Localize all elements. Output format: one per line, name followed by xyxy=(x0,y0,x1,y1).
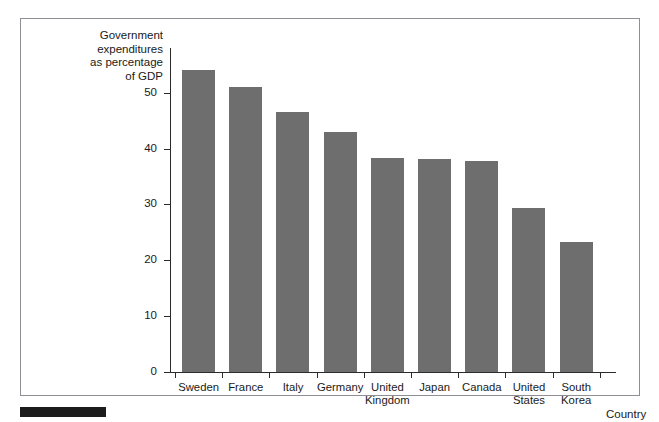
y-axis-title: Government expenditures as percentage of… xyxy=(43,29,163,83)
category-label: Italy xyxy=(269,381,316,394)
y-tick-label-50: 50 xyxy=(117,86,157,98)
category-label: United Kingdom xyxy=(364,381,411,407)
y-tick-10 xyxy=(164,316,171,317)
x-tick xyxy=(553,372,554,378)
x-tick xyxy=(364,372,365,378)
y-tick-label-40: 40 xyxy=(117,142,157,154)
x-tick xyxy=(505,372,506,378)
y-tick-label-20: 20 xyxy=(117,253,157,265)
x-axis-title: Country xyxy=(606,408,646,420)
bar[interactable] xyxy=(512,208,545,372)
category-label: Germany xyxy=(317,381,364,394)
y-tick-0 xyxy=(164,372,171,373)
y-tick-50 xyxy=(164,93,171,94)
y-tick-30 xyxy=(164,204,171,205)
y-tick-40 xyxy=(164,149,171,150)
y-tick-label-30: 30 xyxy=(117,197,157,209)
category-label: Sweden xyxy=(175,381,222,394)
x-axis-line xyxy=(170,372,616,373)
bar[interactable] xyxy=(560,242,593,372)
category-label: South Korea xyxy=(553,381,600,407)
category-label: Canada xyxy=(458,381,505,394)
category-label: France xyxy=(222,381,269,394)
bar[interactable] xyxy=(229,87,262,372)
x-tick xyxy=(222,372,223,378)
plot-area: 01020304050 SwedenFranceItalyGermanyUnit… xyxy=(151,34,621,374)
bar[interactable] xyxy=(276,112,309,372)
figure-frame: Government expenditures as percentage of… xyxy=(20,18,640,396)
y-tick-20 xyxy=(164,260,171,261)
category-label: United States xyxy=(505,381,552,407)
bar[interactable] xyxy=(465,161,498,372)
x-tick xyxy=(458,372,459,378)
y-tick-label-0: 0 xyxy=(117,365,157,377)
x-tick xyxy=(317,372,318,378)
x-tick xyxy=(600,372,601,378)
bar[interactable] xyxy=(182,70,215,372)
y-tick-label-10: 10 xyxy=(117,309,157,321)
category-label: Japan xyxy=(411,381,458,394)
x-tick xyxy=(411,372,412,378)
x-tick xyxy=(269,372,270,378)
x-tick xyxy=(175,372,176,378)
bar[interactable] xyxy=(324,132,357,372)
bars-layer xyxy=(171,34,617,372)
bar[interactable] xyxy=(371,158,404,373)
bar[interactable] xyxy=(418,159,451,372)
footer-rule xyxy=(20,407,106,417)
